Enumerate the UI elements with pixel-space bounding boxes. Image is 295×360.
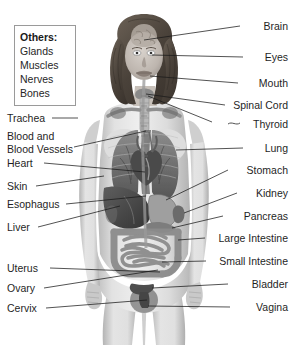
label-blood-and: Blood and (7, 130, 73, 143)
human-body-diagram: Others: Glands Muscles Nerves Bones Trac… (0, 0, 295, 360)
label-spinal-cord: Spinal Cord (233, 100, 288, 111)
label-mouth: Mouth (259, 78, 288, 89)
others-legend-box: Others: Glands Muscles Nerves Bones (14, 25, 76, 106)
others-item-glands: Glands (20, 44, 70, 58)
label-trachea: Trachea (7, 113, 45, 124)
label-bladder: Bladder (252, 279, 288, 290)
others-title: Others: (20, 30, 70, 44)
label-esophagus: Esophagus (7, 199, 60, 210)
label-skin: Skin (7, 181, 27, 192)
label-thyroid: Thyroid (253, 119, 288, 130)
label-stomach: Stomach (247, 165, 288, 176)
label-lung: Lung (265, 143, 288, 154)
label-pancreas: Pancreas (244, 211, 288, 222)
label-small-intestine: Small Intestine (219, 256, 288, 267)
label-heart: Heart (7, 158, 33, 169)
others-item-bones: Bones (20, 86, 70, 100)
label-ovary: Ovary (7, 283, 35, 294)
right-hand (186, 282, 203, 309)
others-item-muscles: Muscles (20, 58, 70, 72)
others-item-nerves: Nerves (20, 72, 70, 86)
left-hand (85, 282, 102, 309)
left-arm (79, 142, 100, 290)
label-blood-and-blood-vessels: Blood and Blood Vessels (7, 130, 73, 155)
label-eyes: Eyes (265, 52, 288, 63)
label-blood-vessels: Blood Vessels (7, 143, 73, 156)
label-uterus: Uterus (7, 263, 38, 274)
label-cervix: Cervix (7, 303, 37, 314)
label-vagina: Vagina (256, 302, 288, 313)
label-liver: Liver (7, 222, 30, 233)
label-brain: Brain (263, 21, 288, 32)
right-arm (188, 142, 209, 290)
label-large-intestine: Large Intestine (219, 233, 288, 244)
label-kidney: Kidney (256, 188, 288, 199)
